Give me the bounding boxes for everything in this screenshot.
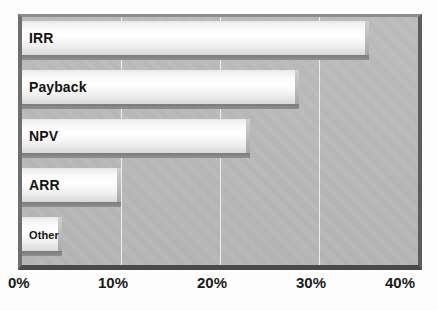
bar-end-cap [365,21,369,55]
bar-shadow [22,153,250,158]
bar-shadow [22,104,299,109]
bar[interactable] [22,21,369,55]
bar-label: IRR [29,30,53,46]
x-tick-label: 40% [385,274,415,292]
bar-chart: IRRPaybackNPVARROther 0%10%20%30%40% [0,0,438,311]
bar-label: NPV [29,128,58,144]
bar-row: NPV [22,119,418,157]
x-tick-label: 0% [8,274,30,292]
bar-end-cap [246,119,250,153]
bar-end-cap [295,70,299,104]
bar-row: Payback [22,70,418,108]
chart-caption [0,299,438,311]
bar-label: Payback [29,79,87,95]
bar-row: ARR [22,168,418,206]
bar-label: Other [29,227,59,243]
bar-shadow [22,55,369,60]
x-tick-label: 20% [197,274,227,292]
bar-end-cap [117,168,121,202]
bar-shadow [22,251,62,256]
bar-row: Other [22,217,418,255]
plot-area: IRRPaybackNPVARROther [22,17,418,265]
x-axis: 0%10%20%30%40% [0,274,438,298]
x-tick-label: 10% [98,274,128,292]
x-tick-label: 30% [296,274,326,292]
bar-shadow [22,202,121,207]
bar-row: IRR [22,21,418,59]
bar-label: ARR [29,177,60,193]
plot-frame: IRRPaybackNPVARROther [18,14,422,270]
